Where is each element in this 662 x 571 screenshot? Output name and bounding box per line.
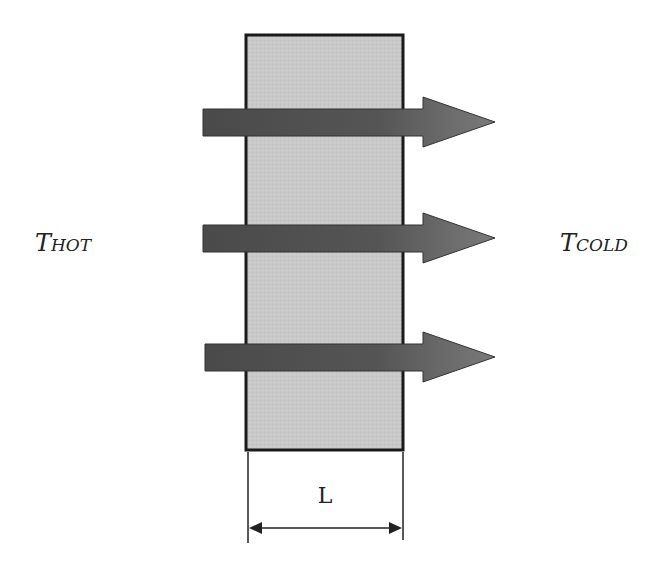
hot-temperature-label: THOT <box>35 229 93 257</box>
dimension-arrowhead-right-icon <box>389 522 402 534</box>
dimension-arrowhead-left-icon <box>249 522 262 534</box>
cold-temperature-label: TCOLD <box>560 229 628 257</box>
heat-conduction-diagram: THOT TCOLD L <box>0 0 662 571</box>
thickness-label: L <box>318 483 333 508</box>
